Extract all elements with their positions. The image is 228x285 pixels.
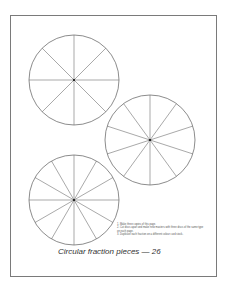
disc-segment-line <box>74 48 106 80</box>
fraction-discs <box>0 0 228 285</box>
disc-segment-line <box>35 178 74 201</box>
disc-eighths <box>29 35 119 125</box>
page-caption: Circular fraction pieces — 26 <box>58 247 178 256</box>
disc-twelfths <box>29 155 119 245</box>
disc-segment-line <box>74 178 113 201</box>
disc-center-dot <box>149 139 151 141</box>
disc-segment-line <box>74 200 113 223</box>
disc-segment-line <box>150 140 176 176</box>
disc-segment-line <box>52 200 75 239</box>
disc-tenths <box>105 95 195 185</box>
disc-segment-line <box>74 161 97 200</box>
disc-segment-line <box>124 104 150 140</box>
disc-center-dot <box>73 79 75 81</box>
instruction-item: 3. Duplicate each fraction on a differen… <box>117 233 205 236</box>
disc-segment-line <box>150 126 193 140</box>
disc-segment-line <box>35 200 74 223</box>
disc-segment-line <box>107 140 150 154</box>
disc-segment-line <box>107 126 150 140</box>
disc-segment-line <box>74 80 106 112</box>
instructions-list: 1. Make three copies of this page. 2. Cu… <box>117 223 205 237</box>
disc-segment-line <box>52 161 75 200</box>
disc-segment-line <box>124 140 150 176</box>
disc-segment-line <box>150 140 193 154</box>
disc-center-dot <box>73 199 75 201</box>
disc-segment-line <box>42 48 74 80</box>
disc-segment-line <box>150 104 176 140</box>
disc-segment-line <box>74 200 97 239</box>
disc-segment-line <box>42 80 74 112</box>
